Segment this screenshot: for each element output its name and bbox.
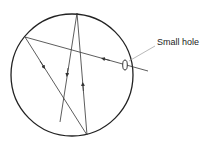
label-leader-line <box>129 46 155 61</box>
reflected-ray-2 <box>77 13 87 135</box>
reflected-ray-2-arrow <box>83 84 84 91</box>
sphere-outline <box>11 14 133 136</box>
reflected-ray-1-arrow <box>40 61 44 67</box>
small-hole-label: Small hole <box>157 37 199 47</box>
diagram-canvas <box>0 0 210 142</box>
small-hole <box>123 60 128 70</box>
incoming-ray-arrow <box>103 59 110 61</box>
